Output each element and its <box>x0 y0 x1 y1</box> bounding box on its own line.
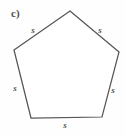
side-label-bottom: s <box>63 121 67 130</box>
pentagon-figure: c) s s s s s <box>0 0 125 136</box>
side-label-upper-left: s <box>31 26 35 35</box>
part-label: c) <box>11 8 20 19</box>
side-label-upper-right: s <box>98 26 102 35</box>
side-label-left: s <box>13 84 17 93</box>
pentagon-outline <box>14 11 119 118</box>
side-label-right: s <box>111 86 115 95</box>
pentagon-drawing <box>0 0 125 136</box>
